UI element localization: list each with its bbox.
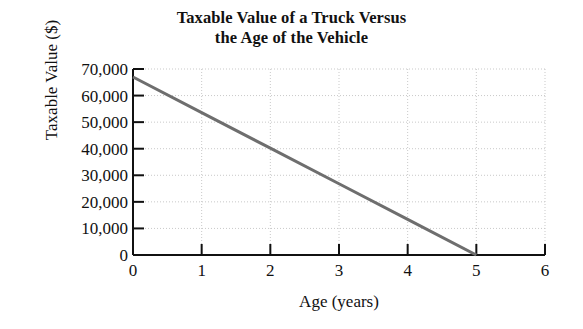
x-tick-label: 6	[530, 262, 560, 279]
vertical-gridlines	[202, 69, 545, 255]
x-tick-label: 3	[324, 262, 354, 279]
chart-figure: Taxable Value of a Truck Versus the Age …	[0, 0, 583, 329]
y-axis-ticks	[133, 69, 144, 255]
x-tick-label: 1	[187, 262, 217, 279]
x-axis-ticks	[202, 244, 545, 255]
plot-area	[133, 69, 545, 255]
x-tick-label: 5	[461, 262, 491, 279]
x-tick-label: 2	[255, 262, 285, 279]
plot-svg	[133, 69, 545, 255]
x-tick-label: 4	[393, 262, 423, 279]
x-tick-label: 0	[118, 262, 148, 279]
